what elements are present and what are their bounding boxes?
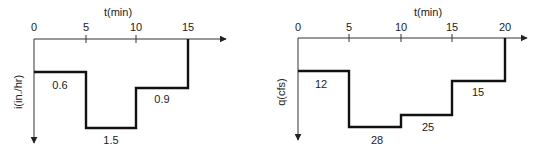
tick-label: 5 (346, 21, 352, 33)
tick-label: 10 (130, 21, 142, 33)
tick-label: 15 (446, 21, 458, 33)
y-axis-label: i(in./hr) (12, 75, 24, 109)
x-axis-label: t(min) (104, 6, 132, 18)
value-label: 1.5 (103, 134, 118, 146)
tick-label: 15 (182, 21, 194, 33)
x-tick-labels: 0 5 10 15 (31, 21, 194, 33)
value-labels: 12 28 25 15 (315, 78, 484, 146)
x-axis-label: t(min) (414, 6, 442, 18)
tick-label: 5 (83, 21, 89, 33)
tick-label: 20 (499, 21, 511, 33)
value-label: 0.9 (154, 93, 169, 105)
tick-label: 0 (31, 21, 37, 33)
x-tick-labels: 0 5 10 15 20 (295, 21, 511, 33)
value-label: 15 (472, 86, 484, 98)
hyetograph-chart: t(min) 0 5 10 15 i(in./hr) 0.6 1.5 0.9 (12, 6, 226, 146)
hydrograph-chart: t(min) 0 5 10 15 20 q(cfs) 12 28 25 15 (275, 6, 527, 146)
tick-label: 0 (295, 21, 301, 33)
value-label: 25 (422, 121, 434, 133)
diagram-canvas: t(min) 0 5 10 15 i(in./hr) 0.6 1.5 0.9 t… (0, 0, 538, 157)
value-label: 0.6 (52, 79, 67, 91)
value-label: 12 (315, 78, 327, 90)
tick-label: 10 (395, 21, 407, 33)
y-axis-label: q(cfs) (275, 78, 287, 106)
value-label: 28 (371, 134, 383, 146)
step-line (298, 38, 505, 127)
